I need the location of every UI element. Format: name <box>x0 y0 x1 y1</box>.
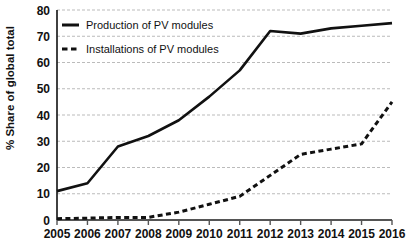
x-axis-tick-labels: 2005200620072008200920102011201220132014… <box>44 227 406 241</box>
y-tick-label: 30 <box>37 135 51 149</box>
y-tick-label: 80 <box>37 4 51 18</box>
chart-container: 01020304050607080 2005200620072008200920… <box>0 0 407 242</box>
x-tick-label: 2013 <box>287 227 314 241</box>
line-chart: 01020304050607080 2005200620072008200920… <box>0 0 407 242</box>
x-tick-label: 2007 <box>105 227 132 241</box>
y-tick-label: 20 <box>37 161 51 175</box>
chart-legend: Production of PV modulesInstallations of… <box>62 19 219 55</box>
x-tick-label: 2014 <box>318 227 345 241</box>
x-tick-label: 2008 <box>135 227 162 241</box>
x-tick-label: 2006 <box>74 227 101 241</box>
x-tick-label: 2005 <box>44 227 71 241</box>
x-tick-label: 2016 <box>379 227 406 241</box>
y-tick-label: 50 <box>37 82 51 96</box>
y-axis-title: % Share of global total <box>4 26 16 150</box>
gridlines-group <box>57 10 392 194</box>
y-tick-label: 10 <box>37 187 51 201</box>
x-tick-label: 2009 <box>165 227 192 241</box>
y-tick-label: 40 <box>37 109 51 123</box>
y-axis-tick-labels: 01020304050607080 <box>37 4 51 228</box>
x-tick-label: 2015 <box>348 227 375 241</box>
x-tick-label: 2010 <box>196 227 223 241</box>
y-tick-label: 70 <box>37 30 51 44</box>
y-tick-label: 0 <box>43 214 50 228</box>
x-tick-label: 2011 <box>227 227 253 241</box>
legend-label: Production of PV modules <box>86 19 214 31</box>
y-tick-label: 60 <box>37 56 51 70</box>
legend-label: Installations of PV modules <box>86 43 219 55</box>
x-tick-label: 2012 <box>257 227 284 241</box>
